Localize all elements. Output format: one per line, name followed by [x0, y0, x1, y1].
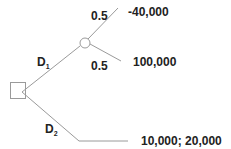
chance-node-circle	[80, 38, 90, 48]
payoff-upper: -40,000	[128, 5, 169, 19]
probability-upper: 0.5	[91, 9, 108, 23]
payoff-d2: 10,000; 20,000	[141, 134, 222, 148]
branch-d1-label: D1	[37, 55, 50, 70]
probability-lower: 0.5	[91, 59, 108, 73]
branch-d2-label: D2	[45, 122, 58, 137]
branch-d2-line	[22, 92, 128, 141]
decision-tree-diagram: D1 D2 0.5 0.5 -40,000 100,000 10,000; 20…	[0, 0, 231, 149]
branch-d1-line	[22, 46, 80, 92]
payoff-lower: 100,000	[133, 55, 177, 69]
